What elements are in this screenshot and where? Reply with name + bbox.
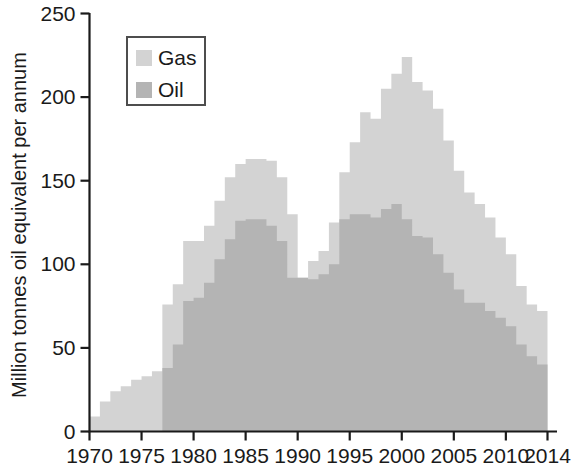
x-tick-label: 1990: [274, 444, 321, 467]
chart-container: 050100150200250 197019751980198519901995…: [0, 0, 576, 475]
y-tick-label: 200: [40, 85, 75, 108]
y-tick-label: 50: [52, 336, 75, 359]
x-tick-label: 1980: [170, 444, 217, 467]
chart-legend: GasOil: [127, 37, 205, 105]
x-tick-label: 1970: [66, 444, 113, 467]
legend-label-gas: Gas: [158, 46, 197, 69]
x-axis-ticks: 1970197519801985199019952000200520102014: [66, 432, 571, 467]
x-tick-label: 1975: [118, 444, 165, 467]
x-tick-label: 2014: [524, 444, 571, 467]
legend-label-oil: Oil: [158, 78, 184, 101]
x-tick-label: 1985: [222, 444, 269, 467]
y-tick-label: 150: [40, 169, 75, 192]
legend-swatch-oil: [136, 82, 152, 98]
x-tick-label: 1995: [326, 444, 373, 467]
plot-data-areas: [90, 57, 548, 432]
y-tick-label: 250: [40, 2, 75, 25]
y-tick-label: 100: [40, 252, 75, 275]
oil-gas-production-area-chart: 050100150200250 197019751980198519901995…: [0, 0, 576, 475]
x-tick-label: 2010: [483, 444, 530, 467]
y-axis-title: Million tonnes oil equivalent per annum: [8, 52, 30, 398]
x-tick-label: 2005: [430, 444, 477, 467]
x-tick-label: 2000: [378, 444, 425, 467]
y-axis-ticks: 050100150200250: [40, 2, 89, 443]
legend-swatch-gas: [136, 50, 152, 66]
y-tick-label: 0: [64, 420, 76, 443]
y-axis-title-text: Million tonnes oil equivalent per annum: [8, 52, 30, 398]
